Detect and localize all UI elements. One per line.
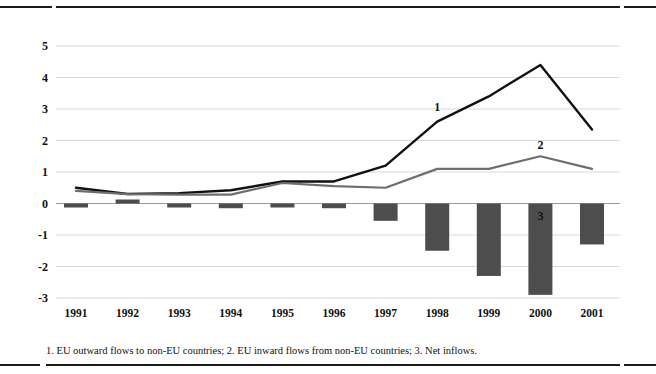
y-tick-5: 5 [22,39,48,54]
x-tick-1997: 1997 [362,307,410,319]
y-tick--2: -2 [22,259,48,274]
y-tick-2: 2 [22,133,48,148]
bar-1994 [219,204,243,209]
bar-1997 [374,204,398,221]
bottom-rule-right [624,364,656,366]
x-tick-1993: 1993 [155,307,203,319]
x-tick-1992: 1992 [104,307,152,319]
line-series-1 [76,65,592,194]
bar-series-group [64,200,604,295]
x-tick-2000: 2000 [516,307,564,319]
x-tick-1991: 1991 [52,307,100,319]
bar-1996 [322,204,346,209]
bar-1998 [425,204,449,251]
bar-2001 [580,204,604,245]
bottom-rule-main [46,364,620,366]
x-tick-1994: 1994 [207,307,255,319]
bar-1991 [64,204,88,208]
y-tick-4: 4 [22,70,48,85]
x-tick-1995: 1995 [258,307,306,319]
y-tick--1: -1 [22,228,48,243]
series-annotation-2: 2 [537,138,543,153]
bar-1992 [116,200,140,204]
bar-1993 [167,204,191,208]
figure-panel: 543210-1-2-3 199119921993199419951996199… [0,0,656,374]
bar-1999 [477,204,501,276]
bottom-rule-left [0,364,40,366]
line-series-group [76,65,592,195]
x-tick-2001: 2001 [568,307,616,319]
series-annotation-3: 3 [537,209,543,224]
line-series-2 [76,156,592,194]
bar-1995 [270,204,294,208]
x-tick-1996: 1996 [310,307,358,319]
series-annotation-1: 1 [434,100,440,115]
y-tick-3: 3 [22,102,48,117]
figure-footnote: 1. EU outward flows to non-EU countries;… [46,344,626,357]
y-tick-1: 1 [22,165,48,180]
x-tick-1999: 1999 [465,307,513,319]
y-tick--3: -3 [22,291,48,306]
y-tick-0: 0 [22,196,48,211]
x-tick-1998: 1998 [413,307,461,319]
